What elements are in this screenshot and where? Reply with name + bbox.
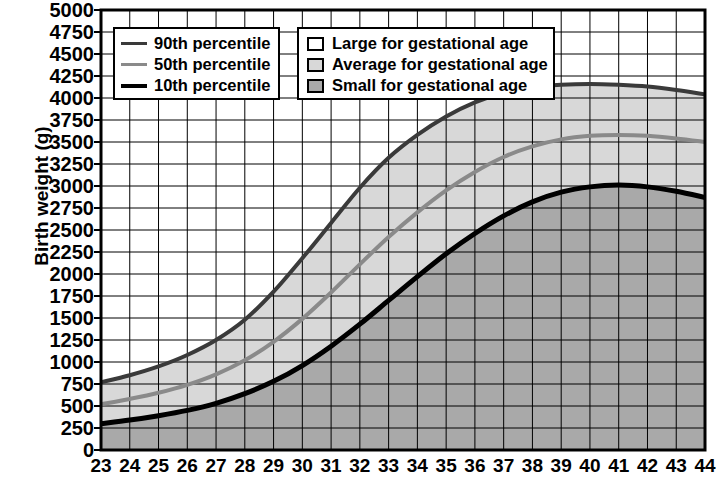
- legend-line-swatch-icon: [121, 84, 147, 88]
- legend-item-label: 90th percentile: [154, 35, 270, 52]
- legend-item-label: Average for gestational age: [332, 56, 548, 73]
- legend-item-label: Small for gestational age: [332, 77, 527, 94]
- legend-item-label: 10th percentile: [154, 77, 270, 94]
- legend-line-swatch-icon: [121, 63, 147, 66]
- legend-item-category: Large for gestational age: [307, 33, 547, 54]
- legend-item-percentile: 10th percentile: [121, 75, 272, 96]
- legend-item-label: 50th percentile: [154, 56, 270, 73]
- legend-item-percentile: 50th percentile: [121, 54, 272, 75]
- legend-item-label: Large for gestational age: [332, 35, 528, 52]
- legend-fill-swatch-icon: [307, 79, 324, 93]
- legend-item-category: Small for gestational age: [307, 75, 547, 96]
- legend-percentile-lines: 90th percentile50th percentile10th perce…: [113, 27, 280, 100]
- legend-gestational-age-categories: Large for gestational ageAverage for ges…: [297, 27, 555, 100]
- legend-line-swatch-icon: [121, 42, 147, 45]
- legend-fill-swatch-icon: [307, 58, 324, 72]
- legend-item-category: Average for gestational age: [307, 54, 547, 75]
- legend-item-percentile: 90th percentile: [121, 33, 272, 54]
- legend-fill-swatch-icon: [307, 37, 324, 51]
